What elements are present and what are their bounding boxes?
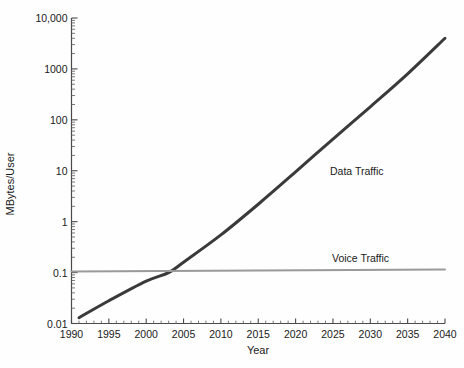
plot-area [0,0,464,368]
y-tick-label: 1000 [8,64,68,75]
y-tick-label: 1 [8,216,68,227]
x-tick-label: 1995 [97,329,120,340]
y-tick-label: 100 [8,115,68,126]
series-line-voice-traffic [72,269,446,271]
x-tick-label: 2025 [321,329,344,340]
x-tick-label: 2015 [247,329,270,340]
x-tick-label: 2030 [359,329,382,340]
axis-lines [71,18,445,324]
x-tick-label: 2010 [209,329,232,340]
series-label-voice-traffic: Voice Traffic [332,252,389,264]
x-tick-label: 2035 [396,329,419,340]
series-label-data-traffic: Data Traffic [330,165,384,177]
y-tick-label: 10 [8,166,68,177]
y-tick-label: 10,000 [8,13,68,24]
chart-container: 10,00010001001010.10.01 1990199520002005… [0,0,464,368]
x-tick-label: 2020 [284,329,307,340]
y-tick-label: 0.1 [8,267,68,278]
series-line-data-traffic [79,38,445,317]
x-tick-label: 2040 [433,329,456,340]
x-tick-label: 1990 [60,329,83,340]
y-axis-title: MBytes/User [4,153,16,216]
series-layer [72,38,446,317]
x-tick-label: 2005 [172,329,195,340]
x-axis-title: Year [247,344,269,356]
x-major-ticks [72,319,446,324]
x-tick-label: 2000 [135,329,158,340]
y-tick-label: 0.01 [8,318,68,329]
